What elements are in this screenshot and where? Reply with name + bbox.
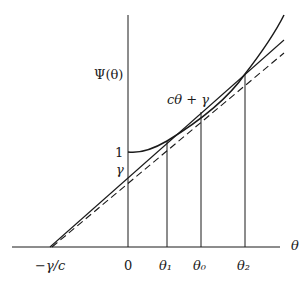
x-tick-neg-gamma-over-c: −γ/c: [35, 259, 65, 272]
x-tick-theta0: θ₀: [193, 259, 206, 272]
x-axis-label: θ: [291, 239, 299, 252]
diagram-canvas: [0, 0, 307, 281]
dashed-tangent-line: [52, 53, 284, 247]
psi-curve: [128, 15, 284, 152]
x-tick-zero: 0: [124, 259, 132, 272]
psi-theta-diagram: Ψ(θ) cθ + γ 1 γ θ −γ/c 0 θ₁ θ₀ θ₂: [0, 0, 307, 281]
y-axis-label: Ψ(θ): [94, 68, 123, 81]
y-tick-one: 1: [115, 146, 123, 159]
x-tick-theta2: θ₂: [237, 259, 250, 272]
x-tick-theta1: θ₁: [159, 259, 172, 272]
line-label: cθ + γ: [167, 93, 209, 106]
y-tick-gamma: γ: [116, 163, 124, 176]
